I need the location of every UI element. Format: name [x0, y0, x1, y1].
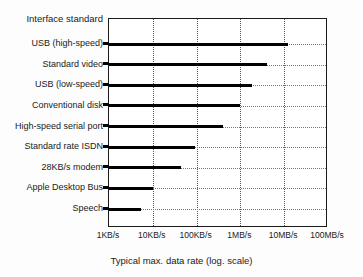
category-label: Standard video: [42, 59, 103, 69]
category-tick: [103, 42, 109, 45]
bar: [109, 43, 288, 46]
x-axis-caption: Typical max. data rate (log. scale): [0, 255, 363, 266]
category-label: Speech: [72, 203, 103, 213]
plot-area: [108, 18, 327, 227]
chart-figure: Interface standard USB (high-speed)Stand…: [0, 0, 363, 277]
category-tick: [103, 83, 109, 86]
x-tick-label: 1KB/s: [97, 230, 120, 240]
bar: [109, 208, 141, 211]
gridline-vertical: [240, 19, 241, 226]
category-label: Apple Desktop Bus: [26, 182, 103, 192]
x-tick-label: 10KB/s: [138, 230, 165, 240]
category-label: Conventional disk: [32, 100, 103, 110]
bar: [109, 146, 195, 149]
gridline-vertical: [284, 19, 285, 226]
category-tick: [103, 165, 109, 168]
y-axis-title: Interface standard: [26, 13, 103, 24]
category-tick: [103, 124, 109, 127]
gridline-vertical: [197, 19, 198, 226]
bar: [109, 125, 223, 128]
category-tick: [103, 207, 109, 210]
category-label: High-speed serial port: [15, 121, 103, 131]
bar: [109, 63, 267, 66]
category-label: USB (high-speed): [31, 38, 103, 48]
x-tick-label: 100MB/s: [310, 230, 344, 240]
category-tick: [103, 62, 109, 65]
bar: [109, 187, 153, 190]
x-tick-label: 10MB/s: [269, 230, 298, 240]
gridline-horizontal: [109, 209, 326, 210]
bar: [109, 104, 240, 107]
category-tick: [103, 145, 109, 148]
category-label: 28KB/s modem: [41, 162, 103, 172]
category-label: Standard rate ISDN: [24, 141, 103, 151]
bar: [109, 84, 252, 87]
gridline-vertical: [153, 19, 154, 226]
bar: [109, 166, 181, 169]
category-tick: [103, 103, 109, 106]
x-tick-label: 1MB/s: [227, 230, 251, 240]
category-tick: [103, 186, 109, 189]
category-label: USB (low-speed): [35, 79, 103, 89]
x-tick-label: 100KB/s: [180, 230, 212, 240]
